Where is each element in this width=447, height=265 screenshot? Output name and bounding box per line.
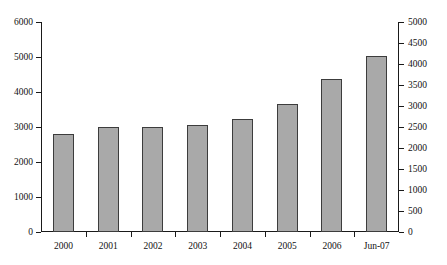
category-axis-label: 2000 — [54, 241, 73, 252]
category-axis-label: 2004 — [233, 241, 252, 252]
left-axis-tick — [36, 162, 41, 163]
right-axis-tick — [399, 190, 404, 191]
bar-slot — [86, 22, 131, 232]
bar-slot — [265, 22, 310, 232]
right-axis-tick — [399, 127, 404, 128]
bar — [98, 127, 119, 232]
left-axis-tick-label: 2000 — [14, 157, 33, 167]
left-axis-tick — [36, 127, 41, 128]
right-axis-tick — [399, 232, 404, 233]
left-axis-tick — [36, 22, 41, 23]
category-axis-tick — [354, 232, 355, 237]
bar — [187, 125, 208, 232]
category-axis-tick — [86, 232, 87, 237]
bar-slot — [41, 22, 86, 232]
category-axis-tick — [220, 232, 221, 237]
bar-slot — [310, 22, 355, 232]
right-axis-tick-label: 1000 — [408, 185, 427, 195]
category-axis-label: 2002 — [143, 241, 162, 252]
right-axis-tick-label: 5000 — [408, 17, 427, 27]
right-axis-tick — [399, 211, 404, 212]
bar — [142, 127, 163, 232]
bar — [232, 119, 253, 232]
bar-slot — [220, 22, 265, 232]
bar-slot — [131, 22, 176, 232]
bar-slot — [175, 22, 220, 232]
bar — [277, 104, 298, 232]
right-axis-tick-label: 3500 — [408, 80, 427, 90]
left-axis-tick-label: 6000 — [14, 17, 33, 27]
right-axis-tick-label: 0 — [408, 227, 413, 237]
right-axis-tick-label: 500 — [408, 206, 422, 216]
right-axis-tick — [399, 22, 404, 23]
bar — [53, 134, 74, 232]
category-axis-label: 2006 — [322, 241, 341, 252]
category-axis-tick — [265, 232, 266, 237]
left-axis-tick-label: 5000 — [14, 52, 33, 62]
left-axis-tick — [36, 197, 41, 198]
left-axis-tick-label: 1000 — [14, 192, 33, 202]
bar-slot — [354, 22, 399, 232]
right-axis-tick — [399, 169, 404, 170]
left-axis-tick — [36, 232, 41, 233]
bar-series — [41, 22, 399, 232]
right-axis-tick-label: 4500 — [408, 38, 427, 48]
category-axis-label: 2001 — [99, 241, 118, 252]
right-axis-tick — [399, 64, 404, 65]
bar-chart: 0100020003000400050006000 05001000150020… — [0, 0, 447, 265]
category-axis-tick — [131, 232, 132, 237]
category-axis-label: Jun-07 — [364, 241, 390, 252]
right-axis-tick — [399, 148, 404, 149]
left-axis-tick-label: 0 — [28, 227, 33, 237]
right-axis-tick-label: 2000 — [408, 143, 427, 153]
left-axis-tick-label: 4000 — [14, 87, 33, 97]
category-axis-tick — [175, 232, 176, 237]
category-axis-label: 2005 — [278, 241, 297, 252]
left-axis-tick — [36, 92, 41, 93]
right-axis-tick — [399, 106, 404, 107]
right-axis-tick-label: 4000 — [408, 59, 427, 69]
left-axis-tick — [36, 57, 41, 58]
right-axis-tick — [399, 85, 404, 86]
right-axis-tick-label: 3000 — [408, 101, 427, 111]
bar — [366, 56, 387, 232]
right-axis-tick — [399, 43, 404, 44]
bar — [321, 79, 342, 232]
right-axis-tick-label: 1500 — [408, 164, 427, 174]
category-axis-tick — [310, 232, 311, 237]
left-axis-tick-label: 3000 — [14, 122, 33, 132]
category-axis-label: 2003 — [188, 241, 207, 252]
right-axis-tick-label: 2500 — [408, 122, 427, 132]
